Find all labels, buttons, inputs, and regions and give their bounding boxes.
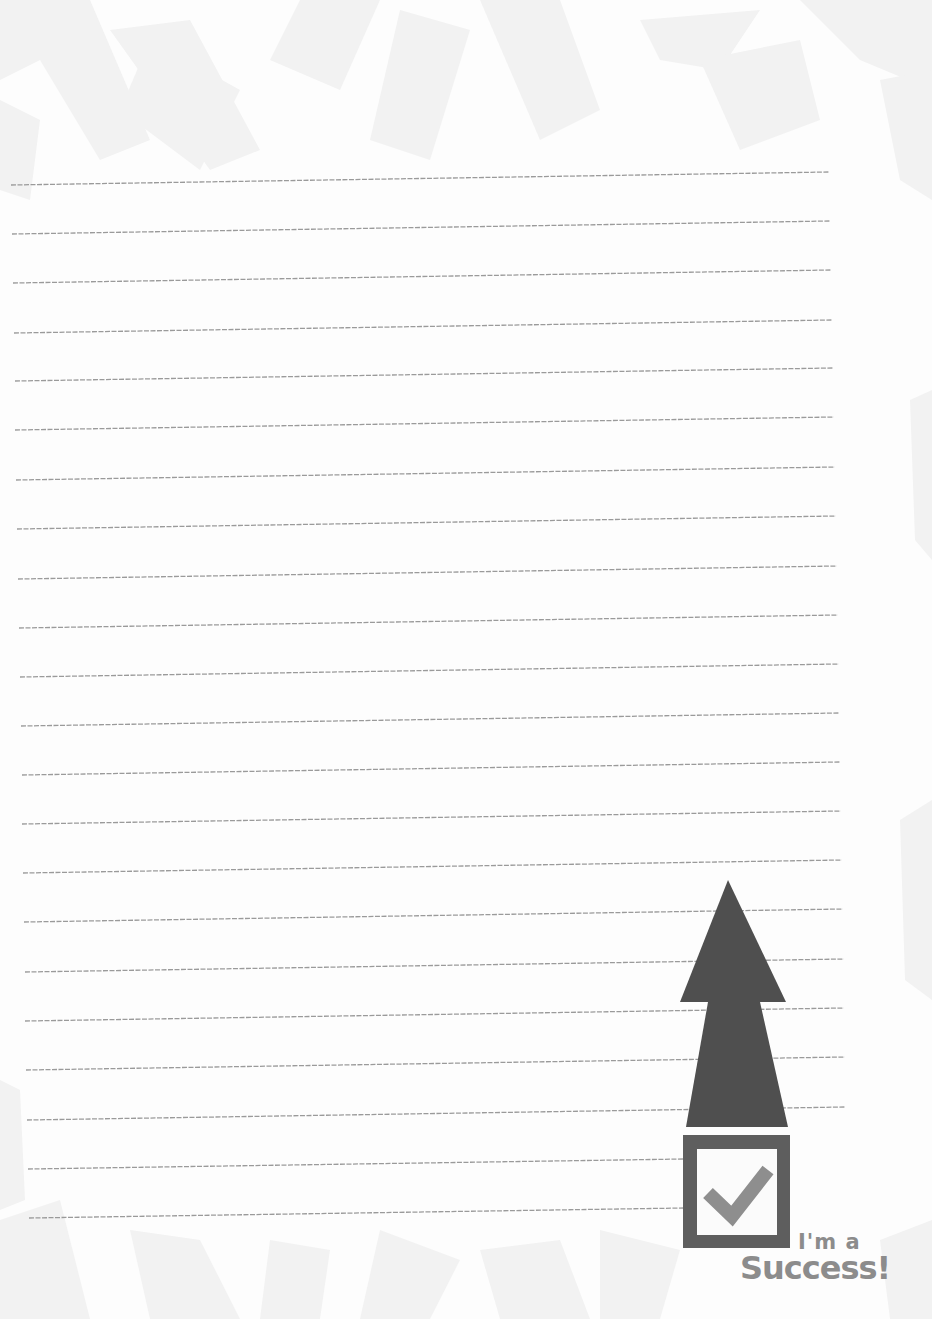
ruled-line [15,417,834,430]
ruled-line [28,1159,684,1169]
ruled-line [17,516,836,529]
ruled-line [12,221,830,234]
ruled-line [19,615,838,628]
ruled-line [29,1208,684,1218]
ruled-line [23,860,842,873]
notepaper-page: I'm a Success! [0,0,932,1319]
ruled-line [20,664,839,677]
ruled-line [27,1107,845,1120]
success-caption: I'm a Success! [738,1232,878,1292]
ruled-line [22,811,841,824]
ruled-line [14,320,832,333]
ruled-line [24,909,843,922]
ruled-line [15,368,833,381]
ruled-lines [0,0,932,1319]
ruled-line [26,1057,845,1070]
ruled-line [18,566,837,579]
ruled-line [25,1008,844,1021]
ruled-line [16,467,835,480]
ruled-line [13,270,831,283]
ruled-line [25,959,844,972]
ruled-line [21,713,839,726]
ruled-line [22,762,840,775]
caption-line-2: Success! [740,1252,890,1284]
ruled-line [11,172,829,185]
